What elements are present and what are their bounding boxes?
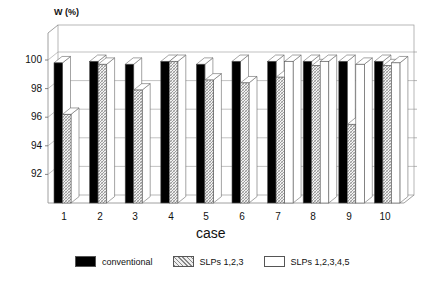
x-tick-9: 9	[339, 211, 359, 222]
legend-label: conventional	[102, 257, 153, 267]
x-tick-6: 6	[232, 211, 252, 222]
x-axis-title: case	[196, 225, 226, 241]
bar	[169, 55, 186, 203]
x-tick-7: 7	[268, 211, 288, 222]
legend-label: SLPs 1,2,3,4,5	[291, 257, 350, 267]
bar	[98, 58, 115, 203]
x-tick-5: 5	[196, 211, 216, 222]
chart-plot-area	[0, 0, 428, 240]
legend-item-conventional: conventional	[75, 256, 153, 267]
chart-legend: conventional SLPs 1,2,3 SLPs 1,2,3,4,5	[75, 256, 370, 267]
bar	[241, 76, 258, 203]
x-tick-8: 8	[303, 211, 323, 222]
bar	[391, 56, 408, 203]
legend-swatch-hatched	[173, 256, 194, 267]
bar	[205, 74, 222, 203]
bar	[134, 84, 151, 203]
bar	[356, 58, 373, 203]
legend-item-slps-12345: SLPs 1,2,3,4,5	[264, 256, 350, 267]
x-tick-4: 4	[161, 211, 181, 222]
x-tick-2: 2	[90, 211, 110, 222]
bar	[285, 55, 302, 203]
legend-swatch-black	[75, 256, 96, 267]
legend-label: SLPs 1,2,3	[200, 257, 244, 267]
legend-swatch-white	[264, 256, 285, 267]
x-tick-1: 1	[54, 211, 74, 222]
legend-item-slps-123: SLPs 1,2,3	[173, 256, 244, 267]
x-tick-10: 10	[375, 211, 395, 222]
bar	[320, 55, 337, 203]
bar	[63, 108, 80, 203]
x-tick-3: 3	[125, 211, 145, 222]
